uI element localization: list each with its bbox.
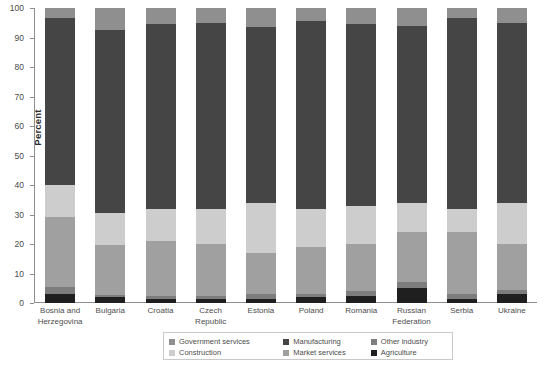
bar-segment[interactable] <box>497 244 527 290</box>
bar-segment[interactable] <box>146 24 176 208</box>
stacked-bar[interactable] <box>196 8 226 303</box>
bar-segment[interactable] <box>95 213 125 245</box>
bar-segment[interactable] <box>45 18 75 185</box>
plot-area: 0102030405060708090100 <box>34 8 537 303</box>
bar-segment[interactable] <box>296 297 326 303</box>
stacked-bar[interactable] <box>146 8 176 303</box>
bar-group[interactable] <box>146 8 176 303</box>
bar-group[interactable] <box>95 8 125 303</box>
bar-segment[interactable] <box>497 294 527 303</box>
legend-item[interactable]: Construction <box>169 348 283 357</box>
bar-segment[interactable] <box>296 209 326 247</box>
bar-segment[interactable] <box>397 282 427 288</box>
bar-segment[interactable] <box>296 8 326 21</box>
bar-segment[interactable] <box>196 209 226 244</box>
category-label: Russian Federation <box>386 306 436 327</box>
bar-segment[interactable] <box>246 203 276 253</box>
stacked-bar[interactable] <box>95 8 125 303</box>
bar-segment[interactable] <box>196 296 226 299</box>
bar-segment[interactable] <box>146 8 176 24</box>
bar-segment[interactable] <box>397 26 427 203</box>
bar-segment[interactable] <box>45 8 75 18</box>
bar-segment[interactable] <box>447 209 477 233</box>
bar-segment[interactable] <box>45 217 75 286</box>
bar-segment[interactable] <box>196 299 226 303</box>
bar-group[interactable] <box>246 8 276 303</box>
stacked-bar[interactable] <box>246 8 276 303</box>
bar-group[interactable] <box>447 8 477 303</box>
bar-segment[interactable] <box>397 288 427 303</box>
legend-label: Agriculture <box>381 348 417 357</box>
bar-segment[interactable] <box>95 8 125 30</box>
bar-segment[interactable] <box>246 8 276 27</box>
legend-item[interactable]: Government services <box>169 337 283 346</box>
bar-segment[interactable] <box>346 8 376 24</box>
bar-segment[interactable] <box>296 21 326 208</box>
bar-group[interactable] <box>397 8 427 303</box>
bar-segment[interactable] <box>296 294 326 297</box>
bar-segment[interactable] <box>296 247 326 294</box>
bar-segment[interactable] <box>346 296 376 303</box>
bar-segment[interactable] <box>447 294 477 298</box>
bar-group[interactable] <box>45 8 75 303</box>
bar-segment[interactable] <box>146 296 176 299</box>
y-tick-label: 100 <box>10 3 24 13</box>
legend-swatch-icon <box>371 339 377 345</box>
bar-segment[interactable] <box>146 241 176 296</box>
bar-segment[interactable] <box>346 244 376 291</box>
y-tick-label: 0 <box>19 298 24 308</box>
bar-segment[interactable] <box>447 18 477 208</box>
bar-segment[interactable] <box>196 23 226 209</box>
bar-segment[interactable] <box>346 291 376 295</box>
bar-segment[interactable] <box>346 206 376 244</box>
bar-segment[interactable] <box>45 287 75 294</box>
legend-item[interactable]: Manufacturing <box>283 337 371 346</box>
bar-segment[interactable] <box>447 232 477 294</box>
bar-group[interactable] <box>346 8 376 303</box>
stacked-bar[interactable] <box>497 8 527 303</box>
bar-group[interactable] <box>497 8 527 303</box>
y-tick-0: 0 <box>30 303 34 304</box>
bar-segment[interactable] <box>95 245 125 294</box>
bar-segment[interactable] <box>146 209 176 241</box>
bar-segment[interactable] <box>246 253 276 294</box>
bar-segment[interactable] <box>497 290 527 294</box>
bar-segment[interactable] <box>95 30 125 213</box>
bar-segment[interactable] <box>95 297 125 303</box>
bar-segment[interactable] <box>95 295 125 297</box>
y-tick-label: 40 <box>15 180 24 190</box>
bar-segment[interactable] <box>246 299 276 303</box>
bar-segment[interactable] <box>397 232 427 282</box>
legend-item[interactable]: Agriculture <box>371 348 447 357</box>
bar-segment[interactable] <box>497 203 527 244</box>
bar-segment[interactable] <box>246 294 276 298</box>
bar-segment[interactable] <box>196 244 226 296</box>
stacked-bar[interactable] <box>296 8 326 303</box>
bar-group[interactable] <box>196 8 226 303</box>
bar-segment[interactable] <box>497 8 527 23</box>
stacked-bar[interactable] <box>45 8 75 303</box>
bar-segment[interactable] <box>146 299 176 303</box>
legend-row-bottom: ConstructionMarket servicesAgriculture <box>169 347 447 358</box>
y-tick-80: 80 <box>30 67 34 68</box>
bar-segment[interactable] <box>45 294 75 303</box>
y-tick-100: 100 <box>30 8 34 9</box>
bar-segment[interactable] <box>346 24 376 205</box>
stacked-bar[interactable] <box>346 8 376 303</box>
bar-segment[interactable] <box>246 27 276 203</box>
bar-segment[interactable] <box>196 8 226 23</box>
bar-group[interactable] <box>296 8 326 303</box>
bar-segment[interactable] <box>397 203 427 233</box>
bar-segment[interactable] <box>397 8 427 26</box>
bar-segment[interactable] <box>497 23 527 203</box>
y-tick-50: 50 <box>30 156 34 157</box>
legend-item[interactable]: Market services <box>283 348 371 357</box>
bar-segment[interactable] <box>447 8 477 18</box>
bar-segment[interactable] <box>45 185 75 217</box>
legend-swatch-icon <box>371 350 377 356</box>
legend-label: Manufacturing <box>293 337 341 346</box>
stacked-bar[interactable] <box>397 8 427 303</box>
bar-segment[interactable] <box>447 299 477 303</box>
stacked-bar[interactable] <box>447 8 477 303</box>
legend-item[interactable]: Other industry <box>371 337 447 346</box>
